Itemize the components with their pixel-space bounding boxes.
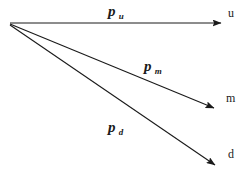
vector-canvas [0, 0, 251, 179]
vector-label-p-u-base: p [108, 3, 116, 19]
axis-label-u: u [228, 7, 234, 19]
vector-label-p-d-subscript: d [119, 127, 124, 137]
vector-diagram: pu pm pd u m d [0, 0, 251, 179]
axis-label-m: m [226, 92, 235, 104]
axis-label-d: d [228, 148, 234, 160]
vector-arrow-down [10, 25, 215, 165]
vector-label-p-u: pu [108, 4, 121, 19]
vector-label-p-d: pd [108, 120, 120, 135]
vector-label-p-u-subscript: u [119, 11, 124, 21]
vector-label-p-m-subscript: m [155, 66, 162, 76]
vector-arrow-mid [10, 24, 214, 108]
vector-label-p-m: pm [144, 59, 159, 74]
vector-label-p-m-base: p [144, 58, 152, 74]
vector-label-p-d-base: p [108, 119, 116, 135]
